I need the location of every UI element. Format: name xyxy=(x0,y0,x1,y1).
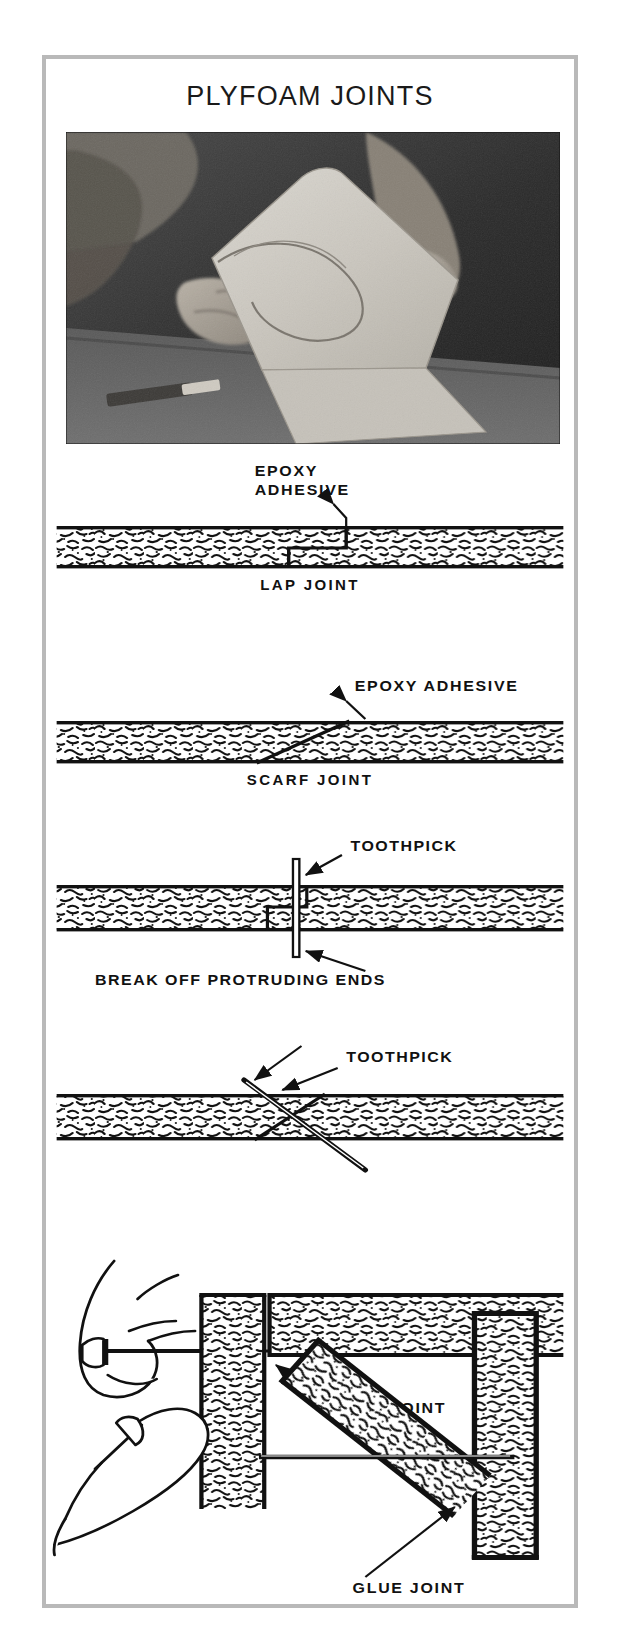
svg-text:ADHESIVE: ADHESIVE xyxy=(255,481,350,497)
page-title: PLYFOAM JOINTS xyxy=(46,81,574,112)
svg-text:EPOXY ADHESIVE: EPOXY ADHESIVE xyxy=(355,677,519,693)
svg-text:TOOTHPICK: TOOTHPICK xyxy=(346,1048,453,1064)
svg-text:EPOXY: EPOXY xyxy=(255,462,319,478)
svg-text:BREAK OFF PROTRUDING ENDS: BREAK OFF PROTRUDING ENDS xyxy=(95,971,386,987)
illustration-page: PLYFOAM JOINTS xyxy=(46,59,574,1604)
illustration-frame: PLYFOAM JOINTS xyxy=(42,55,578,1608)
diagram-glue-joint-angled: GLUE JOINT xyxy=(46,1249,574,1619)
hand-sketch-right xyxy=(54,1409,208,1555)
diagram-scarf-joint-toothpick: TOOTHPICK xyxy=(46,1024,574,1184)
plyfoam-panel-photo xyxy=(66,132,560,444)
svg-text:GLUE JOINT: GLUE JOINT xyxy=(353,1579,466,1595)
svg-text:TOOTHPICK: TOOTHPICK xyxy=(350,837,457,853)
caption-lap-joint: LAP JOINT xyxy=(46,576,574,593)
caption-scarf-joint: SCARF JOINT xyxy=(46,771,574,788)
diagram-lap-joint: EPOXY ADHESIVE LAP JOINT xyxy=(46,454,574,574)
diagram-lap-joint-toothpick: TOOTHPICK BREAK OFF PROTRUDING ENDS xyxy=(46,819,574,989)
diagram-scarf-joint: EPOXY ADHESIVE SCARF JOINT xyxy=(46,649,574,769)
